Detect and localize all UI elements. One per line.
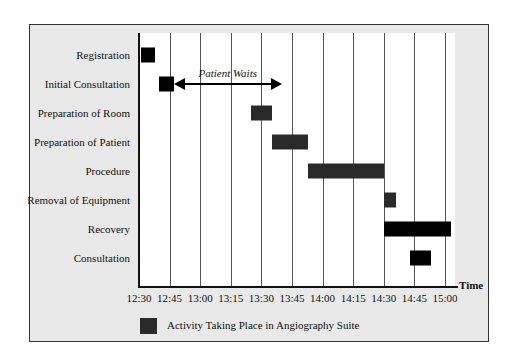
- task-bar: [308, 164, 383, 179]
- task-label: Recovery: [88, 223, 130, 235]
- gridline: [261, 33, 262, 287]
- gridline: [292, 33, 293, 287]
- task-bar: [384, 193, 396, 208]
- task-label: Consultation: [74, 252, 130, 264]
- x-tick-label: 13:00: [188, 292, 213, 304]
- x-tick-label: 15:00: [432, 292, 457, 304]
- legend-label: Activity Taking Place in Angiography Sui…: [167, 319, 359, 331]
- patient-waits-label: Patient Waits: [198, 67, 257, 79]
- task-bar: [141, 48, 155, 63]
- task-label: Preparation of Patient: [34, 136, 130, 148]
- x-tick-label: 13:30: [249, 292, 274, 304]
- x-tick-label: 14:15: [341, 292, 366, 304]
- x-tick-label: 13:45: [279, 292, 304, 304]
- task-label: Preparation of Room: [38, 107, 130, 119]
- gridline: [414, 33, 415, 287]
- gridline: [323, 33, 324, 287]
- double-arrow-line: [182, 83, 274, 85]
- x-tick-label: 12:45: [157, 292, 182, 304]
- task-bar: [251, 106, 271, 121]
- x-axis: [138, 286, 458, 288]
- task-bar: [384, 222, 451, 237]
- task-label: Registration: [76, 49, 130, 61]
- x-axis-title: Time: [459, 279, 483, 291]
- y-axis: [138, 33, 140, 288]
- task-label: Procedure: [85, 165, 130, 177]
- task-bar: [272, 135, 309, 150]
- x-tick-label: 13:15: [218, 292, 243, 304]
- gridline: [170, 33, 171, 287]
- task-bar: [410, 251, 430, 266]
- arrow-head-left-icon: [174, 78, 185, 90]
- x-tick-label: 14:00: [310, 292, 335, 304]
- plot-area: [139, 33, 455, 287]
- legend-swatch: [140, 318, 157, 334]
- gridline: [384, 33, 385, 287]
- x-tick-label: 14:30: [371, 292, 396, 304]
- arrow-head-right-icon: [271, 78, 282, 90]
- x-tick-label: 14:45: [402, 292, 427, 304]
- task-label: Removal of Equipment: [27, 194, 130, 206]
- gridline: [445, 33, 446, 287]
- task-label: Initial Consultation: [45, 78, 130, 90]
- task-bar: [159, 77, 173, 92]
- x-tick-label: 12:30: [126, 292, 151, 304]
- gridline: [353, 33, 354, 287]
